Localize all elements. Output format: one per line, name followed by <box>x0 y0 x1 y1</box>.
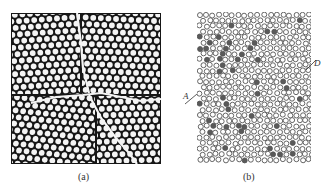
caption-b: (b) <box>243 171 255 182</box>
caption-a: (a) <box>78 171 89 182</box>
marker-lines <box>0 0 331 188</box>
marker-a-label: A <box>183 91 189 101</box>
marker-d-label: D <box>314 58 321 68</box>
